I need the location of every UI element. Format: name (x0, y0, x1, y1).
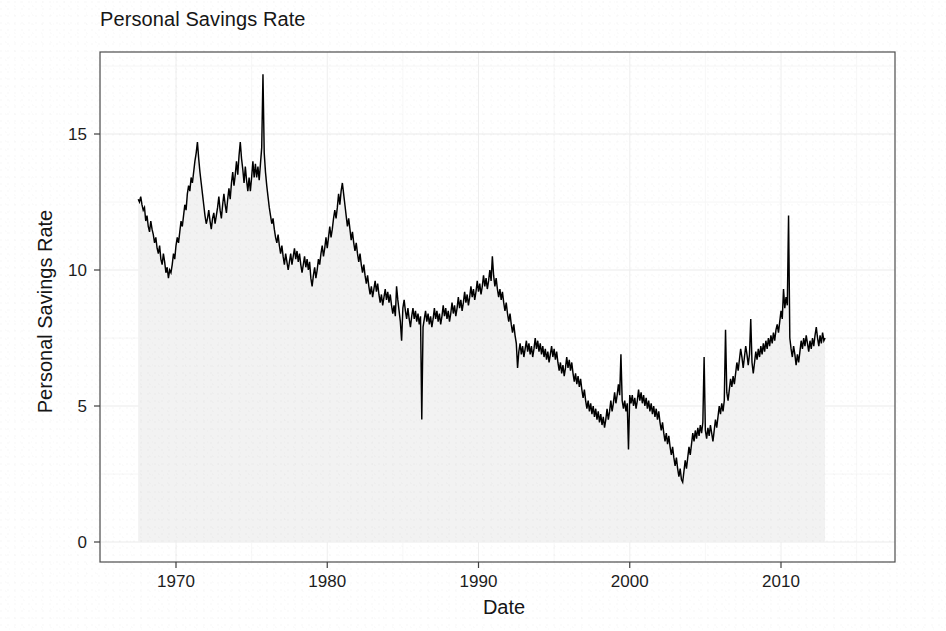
y-axis-tick-label: 5 (78, 397, 87, 416)
y-axis: 051015 (68, 125, 100, 552)
y-axis-tick-label: 10 (68, 261, 87, 280)
x-axis-tick-label: 2000 (611, 572, 649, 591)
series-area-fill (138, 74, 825, 542)
y-axis-tick-label: 0 (78, 533, 87, 552)
y-axis-tick-label: 15 (68, 125, 87, 144)
x-axis-tick-label: 1980 (308, 572, 346, 591)
x-axis-tick-label: 1970 (157, 572, 195, 591)
x-axis: 19701980199020002010 (157, 562, 800, 591)
personal-savings-rate-plot: 051015 19701980199020002010 (0, 0, 946, 631)
x-axis-tick-label: 1990 (460, 572, 498, 591)
x-axis-tick-label: 2010 (762, 572, 800, 591)
chart-page: Personal Savings Rate Personal Savings R… (0, 0, 946, 631)
plot-area: 051015 19701980199020002010 (0, 0, 946, 631)
